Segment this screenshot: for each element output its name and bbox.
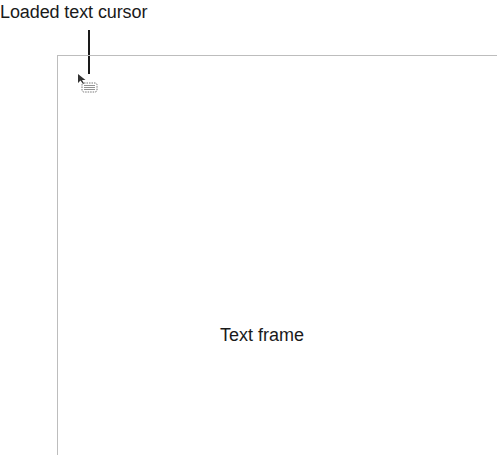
- text-frame[interactable]: [57, 55, 497, 455]
- loaded-text-cursor-icon: [77, 73, 101, 97]
- loaded-text-cursor-callout: Loaded text cursor: [0, 2, 147, 23]
- text-frame-label: Text frame: [220, 325, 304, 346]
